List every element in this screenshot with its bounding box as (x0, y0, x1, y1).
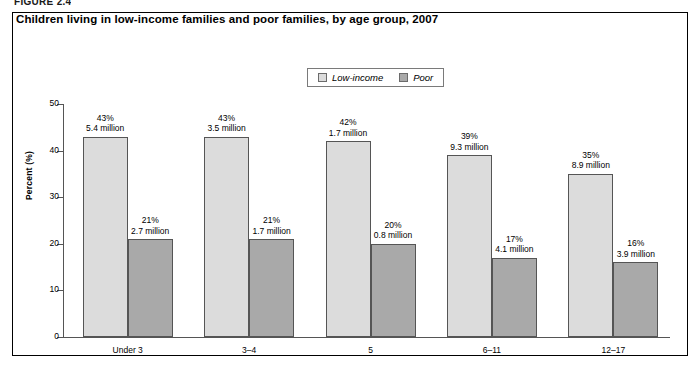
bar-count-text: 8.9 million (556, 160, 626, 171)
bar-value-label: 16%3.9 million (601, 238, 671, 259)
x-axis-category-label: 3–4 (204, 345, 294, 355)
bar-count-text: 0.8 million (358, 230, 428, 241)
x-axis-category-label: Under 3 (83, 345, 173, 355)
bar-count-text: 3.9 million (601, 249, 671, 260)
y-axis-line (63, 104, 64, 337)
legend-swatch-low-income (318, 73, 327, 82)
plot-area: 01020304050 43%5.4 million21%2.7 million… (63, 104, 670, 337)
bar-percent-text: 39% (434, 131, 504, 142)
chart-title: Children living in low-income families a… (16, 13, 438, 25)
bar-poor (249, 239, 294, 337)
bar-value-label: 17%4.1 million (479, 234, 549, 255)
legend-item-low-income: Low-income (318, 72, 383, 83)
y-axis-tick-label: 50 (50, 98, 59, 108)
bar-count-text: 2.7 million (115, 226, 185, 237)
figure-number-label: FIGURE 2.4 (14, 0, 71, 6)
bar-count-text: 1.7 million (313, 128, 383, 139)
x-axis-category-label: 6–11 (447, 345, 537, 355)
legend-label-poor: Poor (413, 72, 433, 83)
y-axis-tick-label: 30 (50, 191, 59, 201)
y-axis-title: Percent (%) (24, 186, 34, 200)
bar-low-income (83, 137, 128, 337)
bar-count-text: 1.7 million (237, 226, 307, 237)
bar-count-text: 4.1 million (479, 244, 549, 255)
bar-value-label: 35%8.9 million (556, 150, 626, 171)
bar-percent-text: 17% (479, 234, 549, 245)
bar-poor (371, 244, 416, 337)
bar-low-income (204, 137, 249, 337)
bar-value-label: 39%9.3 million (434, 131, 504, 152)
x-axis-line (63, 337, 670, 338)
y-axis-tick-label: 0 (54, 331, 59, 341)
chart-legend: Low-income Poor (307, 68, 444, 87)
y-axis-tick-label: 40 (50, 145, 59, 155)
bar-percent-text: 16% (601, 238, 671, 249)
x-axis-category-label: 5 (326, 345, 416, 355)
bar-value-label: 43%3.5 million (192, 113, 262, 134)
bar-count-text: 3.5 million (192, 123, 262, 134)
y-axis-tick-label: 20 (50, 238, 59, 248)
bar-value-label: 20%0.8 million (358, 220, 428, 241)
bar-percent-text: 35% (556, 150, 626, 161)
bar-value-label: 21%1.7 million (237, 215, 307, 236)
legend-swatch-poor (399, 73, 408, 82)
bar-count-text: 5.4 million (70, 123, 140, 134)
bar-percent-text: 43% (70, 113, 140, 124)
y-axis-tick-label: 10 (50, 284, 59, 294)
bar-count-text: 9.3 million (434, 142, 504, 153)
bar-percent-text: 21% (237, 215, 307, 226)
bar-value-label: 21%2.7 million (115, 215, 185, 236)
bar-value-label: 42%1.7 million (313, 117, 383, 138)
bar-percent-text: 21% (115, 215, 185, 226)
bar-poor (128, 239, 173, 337)
bar-percent-text: 20% (358, 220, 428, 231)
legend-item-poor: Poor (399, 72, 433, 83)
legend-label-low-income: Low-income (332, 72, 383, 83)
bar-percent-text: 42% (313, 117, 383, 128)
bar-poor (492, 258, 537, 337)
x-axis-category-label: 12–17 (568, 345, 658, 355)
bar-percent-text: 43% (192, 113, 262, 124)
bar-value-label: 43%5.4 million (70, 113, 140, 134)
bar-poor (613, 262, 658, 337)
